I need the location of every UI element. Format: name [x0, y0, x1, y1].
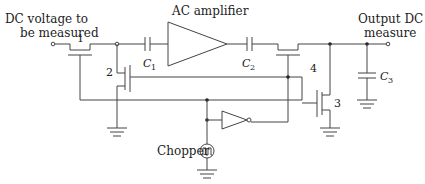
input-label-line2: be measured: [20, 26, 99, 40]
input-label-line1: DC voltage to: [5, 12, 88, 26]
ground-icon: [107, 128, 127, 136]
amplifier-label: AC amplifier: [171, 4, 249, 18]
chopper-network: [205, 77, 302, 145]
circuit-diagram: DC voltage to be measured 1 2: [0, 0, 425, 184]
capacitor-c2: [247, 37, 278, 51]
inverter: [222, 111, 251, 129]
transistor-1: [68, 44, 92, 100]
transistor-3: [302, 44, 330, 128]
c3-subscript: 3: [388, 76, 393, 85]
chopper-label: Chopper: [157, 144, 210, 158]
circuit-svg: DC voltage to be measured 1 2: [0, 0, 425, 184]
junction-dot: [286, 75, 290, 79]
transistor-4-label: 4: [310, 62, 317, 75]
capacitor-c3: [357, 44, 377, 108]
c2-subscript: 2: [250, 63, 255, 72]
ac-amplifier: [168, 22, 247, 66]
output-terminal: [386, 42, 390, 46]
ground-icon: [320, 128, 340, 136]
capacitor-c1: [145, 37, 168, 51]
transistor-4: [276, 44, 300, 122]
transistor-2-label: 2: [106, 66, 113, 79]
transistor-3-label: 3: [334, 97, 341, 110]
transistor-1-label: 1: [77, 32, 84, 45]
c1-subscript: 1: [151, 63, 156, 72]
input-terminal: [51, 42, 70, 46]
output-label-line1: Output DC: [358, 12, 423, 26]
output-label-line2: measure: [364, 26, 416, 40]
